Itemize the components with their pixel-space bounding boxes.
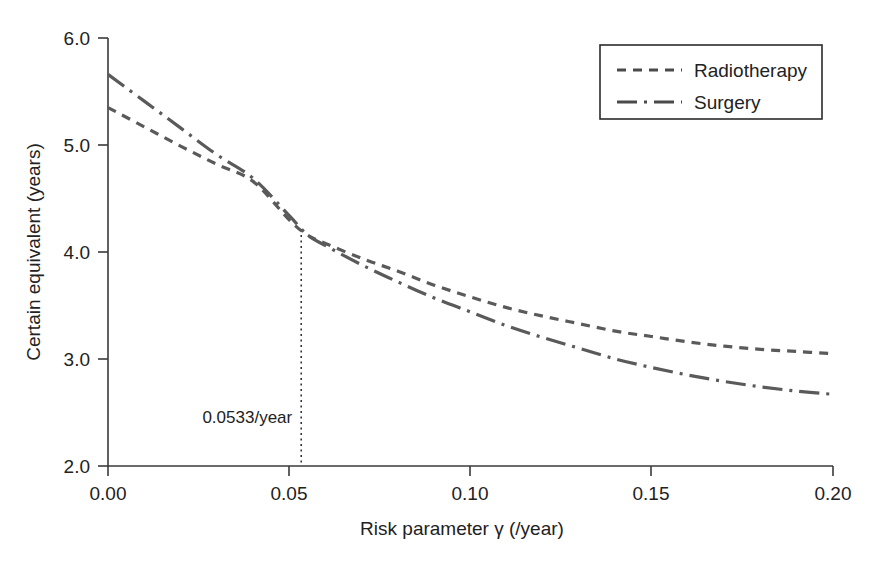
x-axis-title: Risk parameter γ (/year): [360, 518, 564, 539]
certain-equivalent-line-chart: 2.0 3.0 4.0 5.0 6.0 0.00 0.05 0.10 0.15 …: [0, 0, 882, 566]
y-tick-label-6: 6.0: [64, 28, 90, 49]
y-tick-label-5: 5.0: [64, 135, 90, 156]
y-tick-label-2: 2.0: [64, 456, 90, 477]
legend-label-surgery: Surgery: [694, 92, 761, 113]
chart-figure: 2.0 3.0 4.0 5.0 6.0 0.00 0.05 0.10 0.15 …: [0, 0, 882, 566]
x-tick-label-3: 0.15: [633, 483, 670, 504]
x-tick-label-0: 0.00: [90, 483, 127, 504]
x-tick-label-1: 0.05: [271, 483, 308, 504]
x-tick-label-4: 0.20: [815, 483, 852, 504]
chart-legend: Radiotherapy Surgery: [600, 45, 822, 119]
x-tick-label-2: 0.10: [452, 483, 489, 504]
y-tick-label-4: 4.0: [64, 242, 90, 263]
y-tick-label-3: 3.0: [64, 349, 90, 370]
y-axis-title: Certain equivalent (years): [23, 143, 44, 361]
crossover-annotation-label: 0.0533/year: [202, 408, 292, 427]
legend-label-radiotherapy: Radiotherapy: [694, 60, 808, 81]
